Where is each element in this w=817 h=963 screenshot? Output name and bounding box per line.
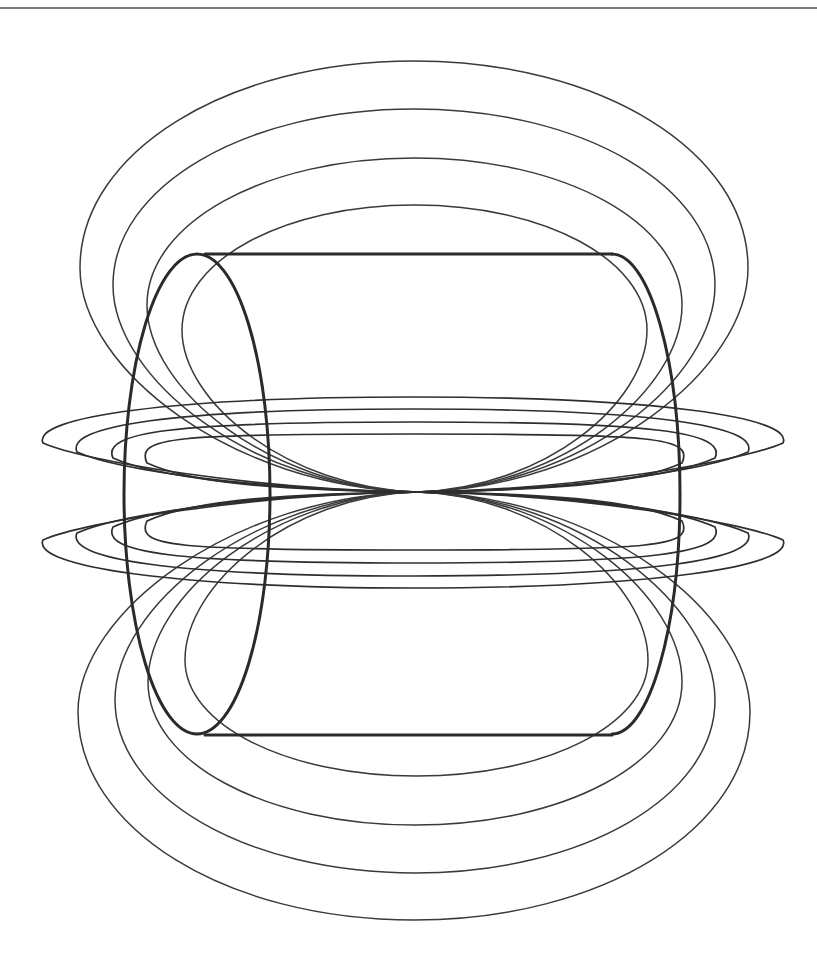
lower-flat-loop-3 <box>112 492 716 563</box>
upper-field-line-3 <box>147 158 682 492</box>
cylinder-left-end <box>124 254 270 734</box>
upper-field-line-1 <box>80 61 748 492</box>
upper-flat-field-loops <box>42 397 783 492</box>
cylinder-right-end <box>612 254 680 734</box>
upper-field-line-4 <box>182 205 647 492</box>
solenoid-field-diagram <box>0 0 817 963</box>
lower-field-line-3 <box>148 492 682 825</box>
lower-flat-field-loops <box>42 492 783 588</box>
upper-flat-loop-4 <box>145 434 684 492</box>
solenoid-cylinder <box>124 254 680 735</box>
lower-flat-loop-4 <box>145 492 684 550</box>
upper-field-lines <box>80 61 748 492</box>
lower-field-line-4 <box>185 492 648 776</box>
